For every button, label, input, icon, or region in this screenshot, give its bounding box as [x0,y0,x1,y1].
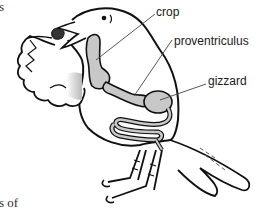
bird-illustration [0,0,260,209]
label-proventriculus: proventriculus [174,35,249,47]
leg-left [108,150,146,182]
food-item [52,28,65,39]
eye-icon [102,16,107,21]
bird-digestive-diagram: crop proventriculus gizzard s s of [0,0,260,209]
tail [170,140,249,196]
cropped-text-bottom: s of [0,196,18,209]
cropped-text-top: s [0,0,4,13]
label-crop: crop [156,6,179,18]
label-gizzard: gizzard [208,75,247,87]
